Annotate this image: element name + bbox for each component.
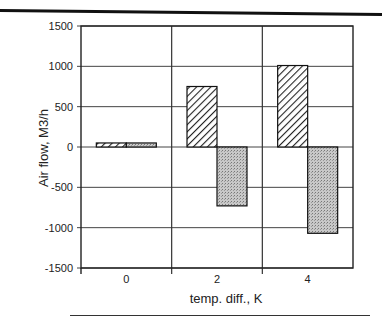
- y-axis-label: Air flow, M3/h: [36, 109, 51, 187]
- x-axis-label: temp. diff., K: [190, 291, 263, 306]
- bottom-rule: [70, 315, 370, 316]
- bar-hatched-4: [278, 66, 308, 147]
- bar-dotted-2: [217, 147, 247, 206]
- y-tick-label: -1000: [45, 222, 73, 234]
- y-tick-label: -500: [51, 181, 73, 193]
- bars: [96, 66, 337, 234]
- chart: 150010005000-500-1000-1500 024 Air flow,…: [0, 0, 382, 324]
- y-tick-label: -1500: [45, 262, 73, 274]
- bar-hatched-0: [96, 143, 126, 147]
- y-tick-label: 500: [55, 101, 73, 113]
- bar-dotted-0: [126, 143, 156, 147]
- y-tick-label: 1000: [49, 60, 73, 72]
- bar-hatched-2: [187, 87, 217, 148]
- y-tick-label: 1500: [49, 20, 73, 32]
- x-tick-label: 2: [214, 273, 220, 285]
- x-tick-label: 0: [123, 273, 129, 285]
- bar-dotted-4: [308, 147, 338, 233]
- x-tick-labels: 024: [123, 273, 310, 285]
- x-tick-label: 4: [305, 273, 311, 285]
- y-tick-label: 0: [67, 141, 73, 153]
